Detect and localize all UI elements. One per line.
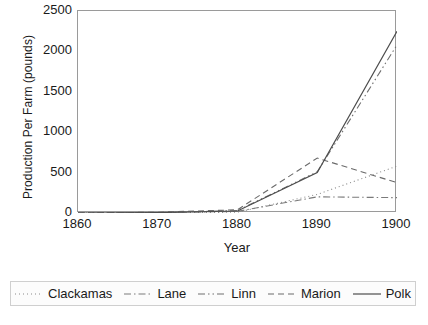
series-line-polk <box>78 31 397 213</box>
x-tick-label: 1900 <box>366 216 426 232</box>
legend-label: Linn <box>231 287 256 301</box>
y-axis-tick-labels: 25002000150010005000 <box>26 0 72 222</box>
legend-item-lane[interactable]: Lane <box>118 287 192 301</box>
legend-label: Lane <box>157 287 186 301</box>
legend-item-clackamas[interactable]: Clackamas <box>9 287 118 301</box>
legend-label: Clackamas <box>48 287 112 301</box>
x-axis-title: Year <box>77 240 397 255</box>
x-tick-label: 1860 <box>47 216 107 232</box>
series-line-marion <box>78 158 397 213</box>
y-tick-label: 500 <box>30 165 72 178</box>
legend-item-linn[interactable]: Linn <box>192 287 262 301</box>
series-line-clackamas <box>78 166 397 213</box>
legend-swatch-linn-icon <box>198 289 226 299</box>
line-chart-figure: Production Per Farm (pounds) 25002000150… <box>0 0 428 325</box>
legend-item-polk[interactable]: Polk <box>347 287 417 301</box>
x-tick-label: 1870 <box>127 216 187 232</box>
legend-swatch-marion-icon <box>268 289 296 299</box>
legend-label: Polk <box>386 287 411 301</box>
legend-item-marion[interactable]: Marion <box>262 287 347 301</box>
x-tick-label: 1880 <box>207 216 267 232</box>
y-tick-label: 2500 <box>30 3 72 16</box>
y-tick-label: 1000 <box>30 124 72 137</box>
legend-label: Marion <box>301 287 341 301</box>
chart-legend: ClackamasLaneLinnMarionPolk <box>10 281 416 306</box>
legend-swatch-lane-icon <box>124 289 152 299</box>
series-line-linn <box>78 45 397 213</box>
legend-swatch-clackamas-icon <box>15 289 43 299</box>
plot-svg <box>78 11 397 213</box>
plot-area <box>77 10 396 212</box>
y-tick-label: 2000 <box>30 43 72 56</box>
legend-swatch-polk-icon <box>353 289 381 299</box>
y-tick-label: 1500 <box>30 84 72 97</box>
x-axis-tick-labels: 18601870188018901900 <box>0 216 428 238</box>
x-tick-label: 1890 <box>286 216 346 232</box>
